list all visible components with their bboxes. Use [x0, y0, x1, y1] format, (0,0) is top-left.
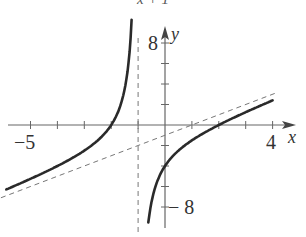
x-axis-label: x: [287, 127, 296, 147]
y-axis-label: y: [169, 24, 179, 44]
curves: [6, 20, 272, 223]
y-max-label: 8: [148, 32, 158, 54]
asymptotes: [1, 38, 275, 236]
x-min-label: −5: [14, 131, 35, 153]
right-branch-curve: [148, 100, 272, 222]
x-max-label: 4: [266, 131, 276, 153]
y-min-label: − 8: [168, 196, 194, 218]
function-plot: −5 4 x 8 y − 8: [0, 0, 306, 237]
left-branch-curve: [6, 20, 131, 190]
